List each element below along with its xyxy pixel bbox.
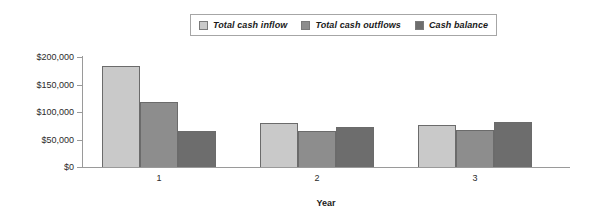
bar-year-2-cash-balance[interactable]	[336, 127, 374, 167]
bar-group-year-2-bars	[260, 57, 374, 167]
x-tick-label-year-2: 2	[260, 173, 374, 183]
y-tick-label-100000: $100,000	[8, 107, 74, 117]
bar-group-year-3-bars	[418, 57, 532, 167]
y-tick-150000	[77, 85, 82, 86]
y-tick-label-50000: $50,000	[8, 135, 74, 145]
bar-group-year-1: 1	[102, 57, 216, 167]
x-axis-title: Year	[82, 198, 570, 208]
y-tick-label-0: $0	[8, 162, 74, 172]
legend-label-series-1: Total cash outflows	[315, 20, 401, 30]
bar-year-3-cash-balance[interactable]	[494, 122, 532, 167]
y-tick-50000	[77, 140, 82, 141]
y-tick-label-200000: $200,000	[8, 52, 74, 62]
bar-year-2-total-cash-inflow[interactable]	[260, 123, 298, 167]
legend-item-total-cash-inflow: Total cash inflow	[199, 20, 287, 30]
legend-swatch-icon-series-0	[199, 21, 208, 30]
bar-year-1-total-cash-outflows[interactable]	[140, 102, 178, 167]
bar-group-year-2: 2	[260, 57, 374, 167]
y-tick-100000	[77, 112, 82, 113]
bar-year-1-total-cash-inflow[interactable]	[102, 66, 140, 167]
x-tick-label-year-3: 3	[418, 173, 532, 183]
x-axis-line	[82, 167, 570, 168]
legend-item-total-cash-outflows: Total cash outflows	[301, 20, 401, 30]
bar-year-3-total-cash-inflow[interactable]	[418, 125, 456, 167]
legend-item-cash-balance: Cash balance	[415, 20, 488, 30]
y-axis-line	[82, 56, 83, 168]
y-tick-0	[77, 167, 82, 168]
x-tick-label-year-1: 1	[102, 173, 216, 183]
plot-area: $200,000 $150,000 $100,000 $50,000 $0 1	[82, 57, 570, 167]
y-tick-label-150000: $150,000	[8, 80, 74, 90]
bar-group-year-3: 3	[418, 57, 532, 167]
bar-year-2-total-cash-outflows[interactable]	[298, 131, 336, 167]
cash-flow-bar-chart: Total cash inflow Total cash outflows Ca…	[0, 0, 608, 220]
legend-label-series-0: Total cash inflow	[213, 20, 287, 30]
chart-legend: Total cash inflow Total cash outflows Ca…	[190, 14, 497, 36]
y-tick-200000	[77, 57, 82, 58]
legend-label-series-2: Cash balance	[429, 20, 488, 30]
legend-swatch-icon-series-1	[301, 21, 310, 30]
bar-group-year-1-bars	[102, 57, 216, 167]
bar-year-1-cash-balance[interactable]	[178, 131, 216, 167]
bar-year-3-total-cash-outflows[interactable]	[456, 130, 494, 167]
legend-swatch-icon-series-2	[415, 21, 424, 30]
